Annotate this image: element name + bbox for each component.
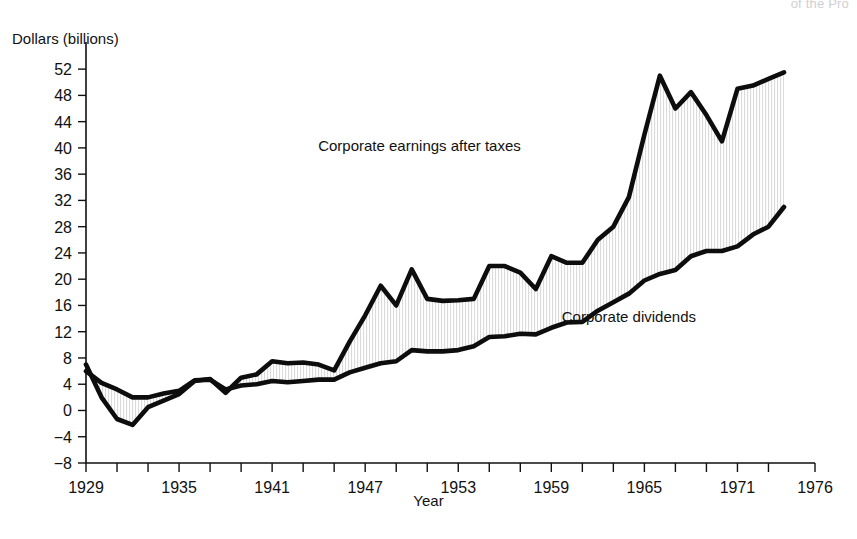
y-tick-label: 48 [54,87,72,104]
y-tick-label: 16 [54,297,72,314]
x-tick-label: 1971 [720,479,756,496]
x-tick-label: 1929 [68,479,104,496]
y-tick-label: 28 [54,219,72,236]
y-tick-label: 4 [63,376,72,393]
series-label: Corporate dividends [562,308,696,325]
x-tick-label: 1953 [440,479,476,496]
y-tick-label: 44 [54,114,72,131]
series-label: Corporate earnings after taxes [318,137,521,154]
y-tick-label: −4 [54,429,72,446]
x-tick-label: 1941 [254,479,290,496]
x-tick-label: 1959 [534,479,570,496]
y-tick-label: 52 [54,61,72,78]
x-tick-label: 1965 [627,479,663,496]
x-tick-label: 1935 [161,479,197,496]
y-tick-label: 8 [63,350,72,367]
y-tick-label: 40 [54,140,72,157]
y-tick-label: 12 [54,324,72,341]
y-tick-label: 0 [63,402,72,419]
y-tick-label: 24 [54,245,72,262]
x-tick-label: 1976 [797,479,833,496]
y-axis-tick-labels: 5248444036322824201612840−4−8 [54,61,86,472]
y-tick-label: 36 [54,166,72,183]
y-tick-label: −8 [54,455,72,472]
y-tick-label: 32 [54,192,72,209]
chart-figure: of the Pro Dollars (billions) Year 52484… [0,0,857,539]
y-tick-label: 20 [54,271,72,288]
x-axis-tick-labels: 192919351941194719531959196519711976 [68,463,833,496]
chart-canvas: 5248444036322824201612840−4−8 1929193519… [0,0,857,539]
between-series-band [86,72,784,425]
x-tick-label: 1947 [347,479,383,496]
